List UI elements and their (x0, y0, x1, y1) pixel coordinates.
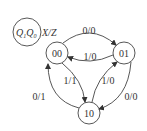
state-10-label: 10 (84, 108, 94, 119)
legend-state-label: Q1Q0 (16, 27, 36, 39)
legend-io-label: X/Z (41, 27, 57, 38)
label-10-00: 0/1 (33, 91, 46, 102)
label-01-00: 1/0 (84, 51, 97, 62)
legend: Q1Q0 X/Z (13, 18, 57, 46)
state-00: 00 (46, 42, 68, 64)
state-diagram: Q1Q0 X/Z 00 01 10 0/0 1/0 1/1 1/0 0/1 0/… (0, 0, 147, 131)
state-01: 01 (113, 42, 135, 64)
label-10-01: 1/0 (102, 75, 115, 86)
label-01-10: 0/0 (125, 91, 138, 102)
label-00-01: 0/0 (83, 25, 96, 36)
state-10: 10 (78, 102, 100, 124)
label-00-10: 1/1 (64, 75, 77, 86)
transition-10-00 (48, 64, 79, 108)
state-01-label: 01 (119, 48, 129, 59)
state-00-label: 00 (52, 48, 62, 59)
